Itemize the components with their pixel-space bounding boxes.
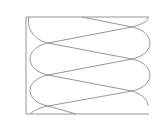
right-loop-arc [132,91,148,106]
diagonal-segment [48,27,132,43]
left-loop-arc [28,17,48,43]
right-loop-arc [132,17,148,27]
left-loop-arc [30,43,48,75]
diagonal-segment [48,91,132,106]
diagonal-segment [48,43,132,59]
diagonal-segment [82,17,132,27]
diagonal-segment [48,75,132,91]
left-loop-arc [30,106,48,114]
left-loop-arc [30,75,48,106]
right-loop-arc [132,27,150,59]
right-loop-arc [132,59,150,91]
diagonal-segment [48,59,132,75]
looped-curve-diagram [0,0,163,129]
diagonal-segment [48,106,76,114]
